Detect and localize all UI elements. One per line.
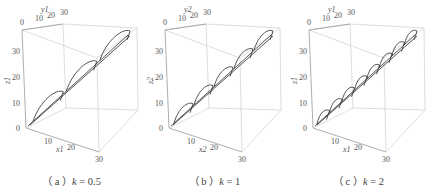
figure-caption-c: （ c ）k = 2 [287,173,430,188]
svg-text:20: 20 [67,143,75,152]
figure-panel-b: 0102030z20102030y2102030x2（ b ）k = 1 [143,0,286,196]
3d-plot-a: 0102030z10102030y1102030x1 [0,0,143,170]
svg-text:30: 30 [347,8,355,17]
svg-text:10: 10 [187,137,195,146]
caption-label: （ c ） [333,176,363,187]
svg-text:30: 30 [382,155,390,164]
svg-text:0: 0 [16,124,20,133]
svg-text:0: 0 [163,18,167,27]
svg-text:20: 20 [155,73,163,82]
z-axis-ticks: 0102030 [155,47,163,133]
svg-text:10: 10 [331,137,339,146]
svg-text:10: 10 [178,14,186,23]
3d-plot-b: 0102030z20102030y2102030x2 [143,0,286,170]
svg-text:30: 30 [238,155,246,164]
x-axis-label: x1 [342,145,351,154]
figure-caption-b: （ b ）k = 1 [143,173,286,188]
svg-text:20: 20 [210,143,218,152]
svg-text:10: 10 [155,99,163,108]
figure-caption-a: （ a ）k = 0.5 [0,173,143,188]
z-axis-label: z2 [146,77,155,85]
figure-panel-c: 0102030z10102030y1102030x1（ c ）k = 2 [287,0,430,196]
svg-text:20: 20 [12,73,20,82]
y-axis-label: y1 [40,5,49,14]
caption-value: = 0.5 [77,176,101,187]
figure-panel-a: 0102030z10102030y1102030x1（ a ）k = 0.5 [0,0,143,196]
svg-text:30: 30 [203,8,211,17]
x-axis-label: x2 [198,145,207,154]
caption-value: = 2 [368,176,384,187]
svg-text:30: 30 [299,47,307,56]
svg-text:10: 10 [44,137,52,146]
z-axis-label: z1 [290,77,299,85]
caption-label: （ b ） [189,176,220,187]
svg-text:30: 30 [155,47,163,56]
svg-text:20: 20 [299,73,307,82]
z-axis-label: z1 [3,77,12,85]
svg-text:10: 10 [12,99,20,108]
svg-text:10: 10 [299,99,307,108]
svg-text:0: 0 [20,18,24,27]
plot-box [165,24,281,152]
caption-label: （ a ） [42,176,72,187]
svg-text:0: 0 [307,18,311,27]
z-axis-ticks: 0102030 [299,47,307,133]
caption-value: = 1 [224,176,240,187]
plot-box [22,24,138,152]
z-axis-ticks: 0102030 [12,47,20,133]
y-axis-label: y1 [327,5,336,14]
svg-text:30: 30 [95,155,103,164]
svg-text:30: 30 [12,47,20,56]
svg-text:30: 30 [60,8,68,17]
plot-box [309,24,425,152]
svg-text:20: 20 [354,143,362,152]
y-axis-label: y2 [183,5,192,14]
3d-plot-c: 0102030z10102030y1102030x1 [287,0,430,170]
svg-text:10: 10 [35,14,43,23]
svg-text:0: 0 [303,124,307,133]
svg-text:10: 10 [322,14,330,23]
svg-text:0: 0 [159,124,163,133]
x-axis-label: x1 [55,145,64,154]
